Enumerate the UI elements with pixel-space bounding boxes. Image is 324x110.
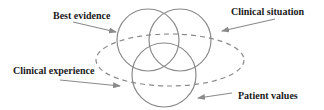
clinical-situation-label: Clinical situation — [231, 6, 305, 17]
best-evidence-arrow — [73, 22, 116, 32]
clinical-experience-ellipse — [96, 34, 244, 86]
clinical-situation-circle — [149, 9, 211, 71]
patient-values-label: Patient values — [238, 90, 298, 101]
patient-values-arrow — [198, 93, 232, 98]
clinical-experience-arrow — [60, 80, 120, 86]
clinical-experience-label: Clinical experience — [13, 65, 95, 76]
best-evidence-circle — [117, 9, 179, 71]
clinical-situation-arrow — [222, 19, 275, 31]
patient-values-circle — [132, 43, 196, 107]
best-evidence-label: Best evidence — [53, 10, 111, 21]
venn-diagram: Best evidence Clinical situation Clinica… — [0, 0, 324, 110]
